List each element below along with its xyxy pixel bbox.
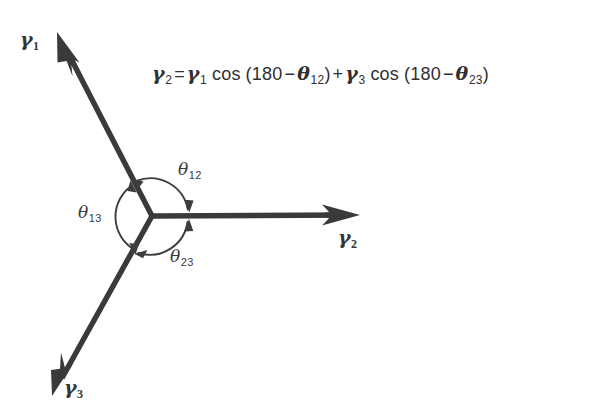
equation-lhs-symbol: γ: [152, 62, 165, 84]
theta-23-label: θ23: [170, 248, 194, 268]
equation-cos2: cos: [370, 64, 399, 84]
equation-term1-symbol: γ: [187, 62, 200, 84]
equation-theta2-symbol: θ: [456, 62, 469, 84]
equation-term2-subscript: 3: [358, 73, 365, 87]
gamma-1-label-symbol: γ: [20, 28, 33, 50]
equation-close-paren-1: ): [324, 64, 330, 84]
theta-23-arrowhead-at-gamma2: [184, 219, 193, 232]
theta-12-label-symbol: θ: [178, 159, 188, 179]
equation-plus: +: [331, 64, 346, 84]
theta-23-label-symbol: θ: [170, 246, 180, 266]
equation-close-paren-2: ): [483, 64, 489, 84]
gamma-1-label-subscript: 1: [33, 39, 40, 53]
equation: γ2=γ1cos(180−θ12)+γ3cos(180−θ23): [152, 62, 489, 87]
gamma-1-shaft: [66, 49, 152, 216]
theta-12-arrowhead-at-gamma2: [185, 200, 194, 213]
gamma-2-label-symbol: γ: [338, 226, 351, 248]
equation-degrees-2: 180: [410, 64, 441, 84]
equation-term2-symbol: γ: [345, 62, 358, 84]
theta-13-label-symbol: θ: [78, 202, 88, 222]
gamma-3-label-subscript: 3: [77, 387, 84, 401]
equation-theta1-symbol: θ: [297, 62, 310, 84]
theta-12-label-subscript: 12: [188, 169, 202, 181]
equation-theta1-subscript: 12: [310, 73, 324, 87]
gamma-3-label-symbol: γ: [64, 376, 77, 398]
theta-23-label-subscript: 23: [180, 256, 194, 268]
equation-equals: =: [172, 64, 187, 84]
vector-shafts: [62, 49, 349, 378]
equation-minus-1: −: [282, 64, 297, 84]
equation-term1-subscript: 1: [200, 73, 207, 87]
gamma-3-shaft: [62, 216, 152, 378]
figure-container: γ2=γ1cos(180−θ12)+γ3cos(180−θ23) γ1 γ2 γ…: [0, 0, 602, 415]
theta-12-label: θ12: [178, 161, 202, 181]
equation-theta2-subscript: 23: [468, 73, 482, 87]
theta-13-label: θ13: [78, 204, 102, 224]
gamma-1-label: γ1: [20, 30, 39, 52]
gamma-3-label: γ3: [64, 378, 83, 400]
gamma-2-arrowhead: [311, 205, 361, 226]
theta-13-label-subscript: 13: [88, 212, 102, 224]
gamma-2-label-subscript: 2: [351, 237, 358, 251]
equation-degrees-1: 180: [252, 64, 283, 84]
equation-minus-2: −: [441, 64, 456, 84]
equation-cos1: cos: [212, 64, 241, 84]
gamma-2-label: γ2: [338, 228, 357, 250]
theta-13-arc: [115, 186, 134, 250]
